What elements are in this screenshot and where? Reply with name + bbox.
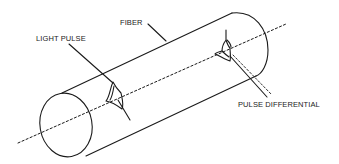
cylinder-left-face (35, 89, 97, 161)
light-pulse-label: LIGHT PULSE (36, 35, 86, 43)
light-pulse-leader-line (69, 44, 113, 83)
light-pulse-2 (215, 30, 231, 61)
cylinder-bottom-edge (86, 76, 256, 156)
pulse-differential-label: PULSE DIFFERENTIAL (238, 101, 320, 109)
cylinder-right-face (232, 13, 268, 76)
light-pulse-1 (106, 82, 130, 120)
pulse-differential-leader-solid (230, 56, 267, 97)
fiber-diagram (0, 0, 339, 164)
fiber-label: FIBER (120, 19, 143, 27)
fiber-leader-line (148, 24, 166, 41)
cylinder-top-edge (62, 13, 232, 93)
